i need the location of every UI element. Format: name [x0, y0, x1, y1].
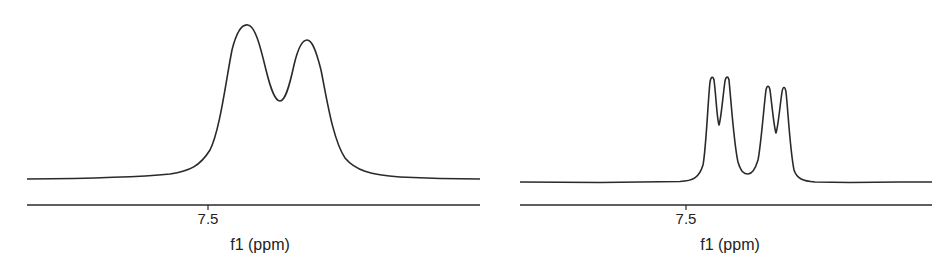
nmr-figure — [0, 0, 952, 280]
right-tick-label: 7.5 — [676, 210, 697, 227]
right-spectrum-panel — [520, 77, 932, 210]
right-spectrum-trace — [520, 77, 932, 182]
right-x-axis-label: f1 (ppm) — [700, 236, 760, 254]
left-spectrum-panel — [27, 25, 480, 210]
left-x-axis-label: f1 (ppm) — [230, 236, 290, 254]
left-tick-label: 7.5 — [198, 210, 219, 227]
left-spectrum-trace — [27, 25, 480, 179]
